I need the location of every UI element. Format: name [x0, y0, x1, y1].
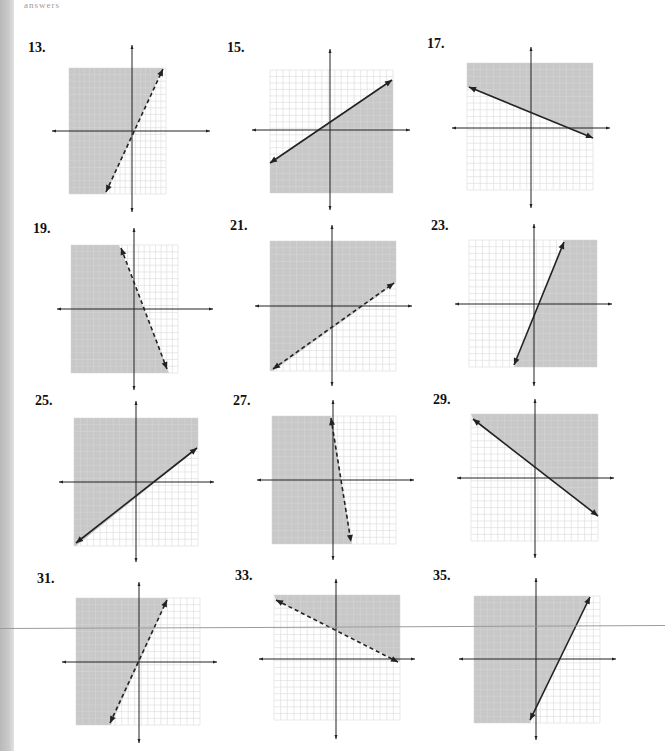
coordinate-graph — [0, 0, 665, 751]
